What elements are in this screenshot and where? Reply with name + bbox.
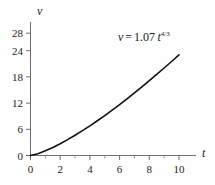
y-tick-label-0: 0: [0, 150, 23, 161]
x-tick-label-8: 8: [147, 164, 153, 175]
chart-figure: 0 6 12 18 24 28 0 2 4 6 8 10 v t v=1.07 …: [0, 0, 215, 185]
x-tick-label-4: 4: [87, 164, 93, 175]
x-tick-label-0: 0: [28, 164, 34, 175]
equation-coefficient: 1.07: [134, 30, 155, 44]
y-tick-label-12: 12: [0, 98, 23, 109]
data-curve-v-of-t: [31, 55, 180, 156]
equation-annotation: v=1.07 t4/3: [118, 31, 170, 43]
equation-equals: =: [123, 30, 134, 44]
y-tick-label-24: 24: [0, 45, 23, 56]
x-tick-label-10: 10: [174, 164, 185, 175]
y-axis-label: v: [37, 5, 42, 17]
x-tick-label-2: 2: [57, 164, 63, 175]
equation-exponent: 4/3: [161, 30, 170, 38]
plot-canvas: [0, 0, 215, 185]
y-tick-label-18: 18: [0, 71, 23, 82]
x-tick-label-6: 6: [117, 164, 123, 175]
y-tick-label-6: 6: [0, 124, 23, 135]
y-tick-label-28: 28: [0, 28, 23, 39]
x-axis-label: t: [202, 147, 205, 159]
y-axis-ticks: [26, 33, 31, 155]
